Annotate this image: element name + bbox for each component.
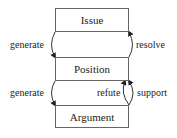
arrow-refute (123, 81, 129, 105)
edge-label-generate-2: generate (10, 88, 44, 98)
arrow-support (129, 81, 133, 105)
arrow-resolve (129, 32, 133, 57)
node-position: Position (55, 57, 129, 81)
connector-left-upper (55, 31, 56, 58)
node-argument-label: Argument (70, 111, 114, 123)
node-issue: Issue (55, 8, 129, 32)
edge-label-generate-1: generate (10, 40, 44, 50)
edge-label-refute: refute (97, 88, 120, 98)
edge-label-support: support (137, 88, 167, 98)
arrow-generate-position-argument (52, 81, 56, 105)
node-issue-label: Issue (81, 14, 104, 26)
node-argument: Argument (55, 105, 129, 128)
edge-label-resolve: resolve (136, 40, 165, 50)
node-position-label: Position (74, 63, 110, 75)
